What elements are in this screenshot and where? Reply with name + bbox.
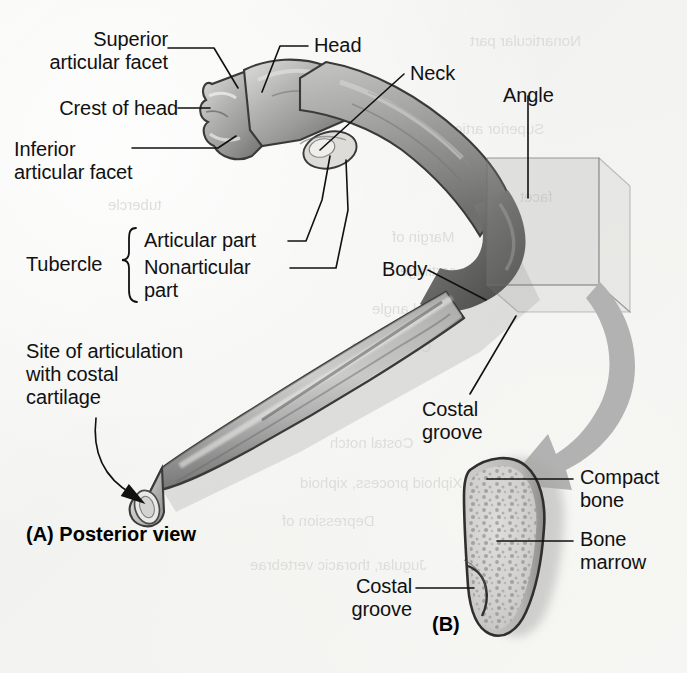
label-bone-marrow: Bone marrow	[580, 528, 646, 574]
bleedthrough-text: Superior articular	[430, 120, 544, 137]
bleedthrough-text: Nonarticular part	[470, 32, 581, 49]
callout-arrow-icon	[506, 282, 635, 490]
bleedthrough-text: tubercle	[108, 196, 161, 213]
label-articular-part: Articular part	[144, 229, 256, 252]
anatomy-figure: Nonarticular partSuperior articularMargi…	[0, 0, 687, 673]
bleedthrough-text: Margin of	[392, 228, 455, 245]
panel-a-caption: (A) Posterior view	[26, 523, 196, 546]
label-neck: Neck	[410, 62, 455, 85]
label-crest-of-head: Crest of head	[14, 97, 178, 120]
label-tubercle: Tubercle	[26, 253, 102, 276]
label-superior-articular-facet: Superior articular facet	[14, 28, 168, 74]
highlight-box	[487, 158, 599, 285]
label-site-of-articulation: Site of articulation with costal cartila…	[26, 340, 236, 409]
bleedthrough-text: Xiphoid process, xiphoid	[300, 474, 463, 491]
bleedthrough-text: Sternal angle	[372, 300, 460, 317]
label-head: Head	[314, 34, 361, 57]
bleedthrough-text: Costal facet	[352, 338, 431, 355]
label-body: Body	[382, 258, 427, 281]
bleedthrough-text: Costal notch	[330, 434, 413, 451]
bleedthrough-text: Jugular, thoracic vertebrae	[250, 556, 427, 573]
bleedthrough-text: facet	[520, 188, 553, 205]
curly-brace-icon	[122, 228, 137, 302]
label-costal-groove-a: Costal groove	[422, 398, 483, 444]
label-compact-bone: Compact bone	[580, 466, 659, 512]
label-nonarticular-part: Nonarticular part	[144, 256, 251, 302]
bleedthrough-text: Depression of	[282, 512, 375, 529]
label-angle: Angle	[503, 84, 554, 107]
label-inferior-articular-facet: Inferior articular facet	[14, 138, 174, 184]
panel-b-caption: (B)	[432, 613, 460, 636]
label-costal-groove-b: Costal groove	[330, 575, 412, 621]
